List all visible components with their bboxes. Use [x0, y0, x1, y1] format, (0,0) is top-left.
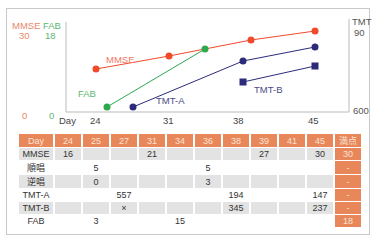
row-label: TMT-B [19, 202, 53, 214]
table-cell: 3 [195, 175, 221, 188]
fab-point [202, 46, 209, 53]
table-cell [251, 175, 277, 188]
row-label: FAB [19, 215, 53, 227]
full-score-cell: - [335, 175, 361, 188]
table-row: FAB 3 15 18 [19, 215, 361, 227]
table-cell [83, 148, 109, 160]
tmt-b-series-label: TMT-B [254, 84, 283, 95]
table-cell [111, 175, 137, 188]
table-cell [55, 161, 81, 174]
table-cell [167, 148, 193, 160]
tmt-a-point [312, 44, 319, 51]
table-cell [251, 202, 277, 214]
tmt-b-line [243, 66, 315, 82]
table-header-row: Day 24 25 27 31 34 36 38 39 41 45 満点 [19, 134, 361, 147]
table-cell [223, 175, 249, 188]
table-cell [279, 215, 305, 227]
table-cell [55, 175, 81, 188]
row-label: 逆唱 [19, 175, 53, 188]
mmse-point [312, 28, 319, 35]
table-cell [55, 215, 81, 227]
table-cell: 147 [307, 189, 333, 201]
table-cell: 3 [83, 215, 109, 227]
table-row: MMSE 16 21 27 30 30 [19, 148, 361, 160]
table-cell [167, 175, 193, 188]
header-cell: 36 [195, 134, 221, 147]
header-cell: 24 [55, 134, 81, 147]
table-row: 順唱 5 5 - [19, 161, 361, 174]
table-cell [195, 215, 221, 227]
tmt-a-series-label: TMT-A [156, 95, 185, 106]
table-cell [279, 148, 305, 160]
table-cell [167, 161, 193, 174]
table-cell [55, 202, 81, 214]
table-cell: 21 [139, 148, 165, 160]
table-cell: 5 [83, 161, 109, 174]
header-cell: 25 [83, 134, 109, 147]
table-cell [167, 202, 193, 214]
mmse-series-label: MMSE [106, 54, 135, 65]
header-cell: 27 [111, 134, 137, 147]
header-cell: 45 [307, 134, 333, 147]
table-cell [251, 215, 277, 227]
row-label: MMSE [19, 148, 53, 160]
tmt-b-point [312, 63, 319, 70]
table-cell [139, 161, 165, 174]
header-cell: 39 [251, 134, 277, 147]
table-cell: 237 [307, 202, 333, 214]
table-cell: × [111, 202, 137, 214]
table-cell: 557 [111, 189, 137, 201]
header-cell: 34 [167, 134, 193, 147]
table-cell: 16 [55, 148, 81, 160]
table-cell [139, 215, 165, 227]
table-cell [111, 215, 137, 227]
header-cell: 31 [139, 134, 165, 147]
tmt-a-point [130, 104, 137, 111]
header-cell: 38 [223, 134, 249, 147]
mmse-point [93, 66, 100, 73]
full-score-cell: - [335, 161, 361, 174]
table-cell [139, 175, 165, 188]
table-cell [307, 215, 333, 227]
row-label: TMT-A [19, 189, 53, 201]
table-cell [223, 148, 249, 160]
tmt-a-point [240, 58, 247, 65]
table-row: TMT-A 557 194 147 - [19, 189, 361, 201]
table-cell [111, 148, 137, 160]
table-cell [307, 175, 333, 188]
mmse-point [248, 37, 255, 44]
header-cell: 41 [279, 134, 305, 147]
table-cell [279, 175, 305, 188]
line-chart [0, 0, 376, 130]
table-cell [139, 189, 165, 201]
header-cell: Day [19, 134, 53, 147]
table-cell [139, 202, 165, 214]
table-row: 逆唱 0 3 - [19, 175, 361, 188]
table-cell: 0 [83, 175, 109, 188]
table-cell [223, 215, 249, 227]
mmse-point [166, 53, 173, 60]
table-cell: 27 [251, 148, 277, 160]
table-cell [223, 161, 249, 174]
table-cell [307, 161, 333, 174]
table-cell [251, 161, 277, 174]
table-cell: 194 [223, 189, 249, 201]
scores-table: Day 24 25 27 31 34 36 38 39 41 45 満点 MMS… [17, 133, 363, 228]
table-cell [279, 202, 305, 214]
tmt-b-point [240, 79, 247, 86]
table-cell [111, 161, 137, 174]
full-score-cell: 30 [335, 148, 361, 160]
table-cell [195, 189, 221, 201]
full-score-cell: - [335, 202, 361, 214]
table-cell [55, 189, 81, 201]
table-cell [167, 189, 193, 201]
table-cell [195, 202, 221, 214]
header-cell-full-score: 満点 [335, 134, 361, 147]
table-cell [83, 189, 109, 201]
table-cell: 5 [195, 161, 221, 174]
table-cell: 30 [307, 148, 333, 160]
row-label: 順唱 [19, 161, 53, 174]
fab-point [104, 104, 111, 111]
full-score-cell: 18 [335, 215, 361, 227]
table-cell [279, 189, 305, 201]
